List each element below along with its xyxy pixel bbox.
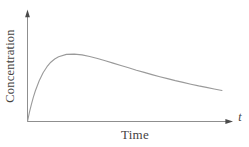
y-axis-arrowhead-icon	[25, 10, 30, 18]
x-axis-arrowhead-icon	[225, 119, 233, 124]
concentration-curve	[28, 54, 223, 121]
x-axis-label: Time	[121, 127, 149, 143]
concentration-time-figure: Concentration Time t	[0, 0, 249, 147]
plot-svg	[0, 0, 249, 147]
y-axis-label: Concentration	[3, 29, 18, 102]
x-axis-end-label: t	[238, 110, 241, 125]
